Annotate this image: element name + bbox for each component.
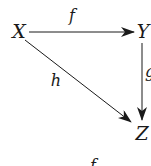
node-x: X xyxy=(12,22,26,41)
node-y: Y xyxy=(137,22,150,41)
edge-label-f: f xyxy=(69,8,75,24)
edge-label-h: h xyxy=(51,73,61,89)
edge-label-g: g xyxy=(145,64,151,80)
arrow-h-x-to-z xyxy=(25,40,131,122)
bottom-caption-f: f xyxy=(90,158,96,166)
node-z: Z xyxy=(135,124,148,143)
commutative-diagram: X Y Z f g h f xyxy=(0,0,151,166)
